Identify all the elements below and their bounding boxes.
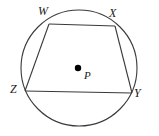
geometry-figure: W X Y Z P <box>0 0 159 136</box>
segment-xy <box>115 26 132 93</box>
vertex-label-z: Z <box>10 83 17 95</box>
geometry-canvas <box>0 0 159 136</box>
segment-yz <box>25 91 132 93</box>
center-point-dot <box>75 65 81 71</box>
segment-wx <box>49 24 115 26</box>
vertex-label-x: X <box>109 7 116 19</box>
segment-zw <box>25 24 49 91</box>
center-point-label: P <box>84 70 91 81</box>
vertex-label-w: W <box>38 5 48 17</box>
vertex-label-y: Y <box>134 87 141 99</box>
